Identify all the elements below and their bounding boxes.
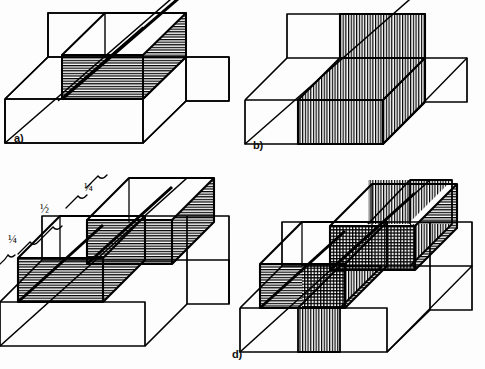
fraction-label-quarter-left: ¼: [8, 232, 17, 247]
panel-label-a: a): [14, 132, 23, 144]
fraction-label-half: ½: [40, 202, 49, 217]
panel-label-d: d): [232, 348, 242, 360]
hatched-slab-b: [298, 14, 425, 144]
panel-d: d): [240, 178, 485, 368]
panel-label-b: b): [253, 139, 263, 151]
panel-c: c): [0, 178, 243, 363]
panel-a: a): [0, 0, 243, 160]
figure-root: a): [0, 0, 485, 369]
fraction-label-quarter-right: ¼: [84, 180, 93, 195]
panel-b: b): [240, 0, 485, 165]
